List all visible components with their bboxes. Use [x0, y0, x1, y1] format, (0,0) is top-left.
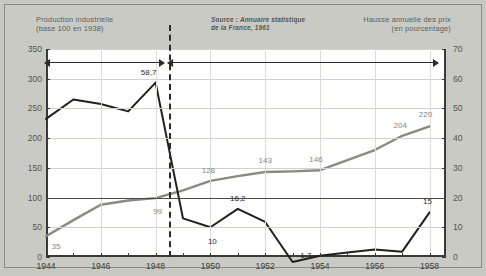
y-tick-mark-right — [442, 108, 446, 109]
y-tick-label-right: 20 — [453, 193, 463, 203]
data-label: 128 — [202, 165, 215, 174]
gridline-vertical — [430, 49, 431, 257]
right-axis-title: Hausse annuelle des prix (en pourcentage… — [363, 15, 451, 33]
data-label: -1,7 — [298, 251, 312, 260]
x-tick-mark — [375, 253, 376, 257]
y-tick-mark-left — [46, 108, 50, 109]
gridline-vertical — [320, 49, 321, 257]
line-prices — [46, 83, 430, 262]
line-production — [46, 126, 430, 236]
x-tick-mark — [156, 253, 157, 257]
y-tick-label-left: 100 — [12, 193, 42, 203]
y-tick-label-right: 30 — [453, 163, 463, 173]
gridline-horizontal — [46, 227, 446, 228]
y-tick-label-left: 300 — [12, 74, 42, 84]
arrow-reconstruction-arrowhead-left — [44, 59, 50, 67]
x-tick-label: 1952 — [256, 261, 275, 271]
source-note: Source : Annuaire statistique de la Fran… — [211, 16, 305, 32]
data-label: 220 — [419, 110, 432, 119]
y-tick-mark-left — [46, 49, 50, 50]
data-label: 35 — [52, 242, 61, 251]
x-tick-label: 1944 — [36, 261, 55, 271]
y-tick-label-left: 50 — [12, 222, 42, 232]
x-tick-mark — [402, 253, 403, 257]
x-tick-label: 1950 — [201, 261, 220, 271]
arrow-reconstruction-arrowhead-right — [159, 59, 165, 67]
data-label: 143 — [258, 156, 271, 165]
x-tick-label: 1956 — [365, 261, 384, 271]
x-tick-label: 1946 — [91, 261, 110, 271]
x-tick-label: 1954 — [310, 261, 329, 271]
gridline-horizontal — [46, 168, 446, 169]
gridline-vertical — [265, 49, 266, 257]
gridline-vertical — [375, 49, 376, 257]
y-tick-mark-right — [442, 168, 446, 169]
y-tick-label-right: 60 — [453, 74, 463, 84]
x-tick-mark — [265, 253, 266, 257]
y-tick-mark-left — [46, 168, 50, 169]
y-tick-mark-left — [46, 138, 50, 139]
y-tick-mark-right — [442, 257, 446, 258]
x-tick-mark — [210, 253, 211, 257]
y-tick-label-left: 150 — [12, 163, 42, 173]
y-tick-label-left: 250 — [12, 103, 42, 113]
chart-figure: Production industrielle (base 100 en 193… — [0, 0, 486, 276]
y-tick-mark-right — [442, 138, 446, 139]
arrow-cycle-arrowhead-left — [167, 59, 173, 67]
x-tick-mark — [320, 253, 321, 257]
series-lines — [46, 49, 446, 257]
gridline-vertical — [101, 49, 102, 257]
y-tick-mark-left — [46, 257, 50, 258]
gridline-horizontal — [46, 49, 446, 50]
y-tick-label-right: 50 — [453, 103, 463, 113]
data-label: 146 — [309, 155, 322, 164]
chart-plate: Production industrielle (base 100 en 193… — [4, 4, 482, 268]
x-tick-mark — [128, 253, 129, 257]
gridline-vertical — [156, 49, 157, 257]
data-label: 99 — [153, 207, 162, 216]
y-tick-label-left: 350 — [12, 44, 42, 54]
x-tick-mark — [73, 253, 74, 257]
x-tick-mark — [183, 253, 184, 257]
data-label: 10 — [208, 237, 217, 246]
y-tick-label-right: 70 — [453, 44, 463, 54]
x-tick-mark — [238, 253, 239, 257]
y-tick-label-right: 10 — [453, 222, 463, 232]
reference-line-right-20 — [46, 198, 446, 199]
data-label: 16,2 — [230, 193, 246, 202]
arrow-reconstruction-line — [45, 62, 165, 63]
gridline-horizontal — [46, 138, 446, 139]
gridline-vertical — [210, 49, 211, 257]
arrow-cycle-line — [168, 62, 438, 63]
y-tick-mark-left — [46, 227, 50, 228]
y-tick-mark-right — [442, 227, 446, 228]
gridline-horizontal — [46, 108, 446, 109]
x-tick-label: 1958 — [420, 261, 439, 271]
arrow-cycle-arrowhead-right — [433, 59, 439, 67]
plot-area: 0050101002015030200402505030060350701944… — [46, 49, 446, 257]
x-tick-mark — [347, 253, 348, 257]
y-tick-mark-right — [442, 49, 446, 50]
gridline-horizontal — [46, 79, 446, 80]
x-tick-mark — [430, 253, 431, 257]
x-tick-label: 1948 — [146, 261, 165, 271]
x-tick-mark — [46, 253, 47, 257]
left-axis-title: Production industrielle (base 100 en 193… — [36, 15, 113, 33]
x-tick-mark — [101, 253, 102, 257]
x-tick-mark — [293, 253, 294, 257]
y-tick-label-right: 40 — [453, 133, 463, 143]
data-label: 15 — [423, 197, 432, 206]
y-tick-label-right: 0 — [453, 252, 458, 262]
y-tick-label-left: 200 — [12, 133, 42, 143]
data-label: 204 — [393, 120, 406, 129]
y-tick-mark-left — [46, 79, 50, 80]
data-label: 58,7 — [141, 67, 157, 76]
y-tick-mark-right — [442, 79, 446, 80]
